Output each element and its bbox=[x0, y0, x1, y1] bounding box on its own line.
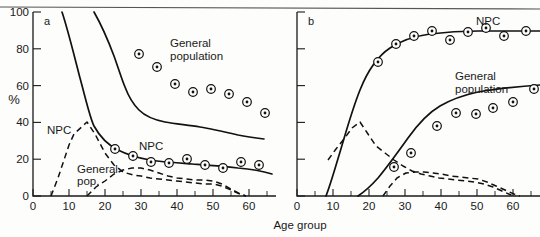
panel-a-label-general-pop-line1: General bbox=[77, 163, 118, 175]
panel-b-npc-markers bbox=[374, 24, 531, 67]
x-axis-title: Age group bbox=[273, 219, 326, 231]
panel-a-x-tick-40: 40 bbox=[171, 200, 184, 212]
panel-b-x-minor-ticks bbox=[315, 191, 531, 196]
panel-a-label-npc-right: NPC bbox=[139, 140, 163, 152]
chart-svg: 0 20 40 60 80 100 % bbox=[0, 0, 540, 237]
panel-a-x-tick-60: 60 bbox=[243, 200, 256, 212]
top-border-rule bbox=[0, 7, 540, 9]
panel-b-x-tick-10: 10 bbox=[327, 200, 340, 212]
panel-a-letter: a bbox=[44, 15, 51, 27]
panel-a-y-tick-80: 80 bbox=[16, 43, 29, 55]
panel-b-general-population-markers bbox=[390, 85, 539, 172]
panel-a-y-tick-100: 100 bbox=[10, 6, 29, 18]
panel-b-x-major-ticks bbox=[297, 189, 513, 196]
panel-b-npc-distribution-curve bbox=[328, 122, 516, 196]
panel-a-label-general-pop-line2: pop. bbox=[77, 175, 99, 187]
panel-b-npc-curve bbox=[326, 31, 540, 196]
panel-a-x-tick-30: 30 bbox=[135, 200, 148, 212]
panel-b-label-general-population-line1: General bbox=[455, 70, 496, 82]
panel-a: 0 20 40 60 80 100 % bbox=[8, 6, 276, 212]
panel-a-y-tick-0: 0 bbox=[23, 190, 29, 202]
panel-b-x-tick-30: 30 bbox=[399, 200, 412, 212]
panel-a-y-tick-40: 40 bbox=[16, 116, 29, 128]
panel-b-x-tick-40: 40 bbox=[435, 200, 448, 212]
panel-b: 0 10 20 30 40 50 60 b bbox=[294, 12, 540, 212]
panel-a-x-tick-0: 0 bbox=[30, 200, 36, 212]
panel-b-label-npc: NPC bbox=[476, 15, 500, 27]
panel-b-label-general-population-line2: population bbox=[455, 83, 508, 95]
panel-a-x-tick-10: 10 bbox=[63, 200, 76, 212]
panel-a-label-general-population-line1: General bbox=[170, 37, 211, 49]
panel-b-x-tick-60: 60 bbox=[507, 200, 520, 212]
panel-b-x-tick-20: 20 bbox=[363, 200, 376, 212]
panel-a-label-npc-left: NPC bbox=[47, 124, 71, 136]
panel-a-x-tick-20: 20 bbox=[99, 200, 112, 212]
panel-b-letter: b bbox=[308, 15, 314, 27]
panel-a-y-tick-60: 60 bbox=[16, 80, 29, 92]
panel-a-y-tick-20: 20 bbox=[16, 153, 29, 165]
panel-b-general-pop-distribution-curve bbox=[383, 172, 520, 196]
figure-container: 0 20 40 60 80 100 % bbox=[0, 0, 540, 237]
panel-b-x-tick-50: 50 bbox=[471, 200, 484, 212]
panel-b-x-tick-0: 0 bbox=[294, 200, 300, 212]
panel-a-label-general-population-line2: population bbox=[170, 50, 223, 62]
panel-a-x-tick-50: 50 bbox=[207, 200, 220, 212]
panel-a-x-major-ticks bbox=[33, 189, 249, 196]
panel-a-general-population-curve bbox=[94, 12, 264, 139]
panel-b-y-ticks bbox=[297, 12, 305, 196]
y-axis-title: % bbox=[8, 92, 20, 107]
panel-a-y-ticks bbox=[33, 12, 41, 196]
panel-a-npc-curve bbox=[62, 12, 272, 174]
